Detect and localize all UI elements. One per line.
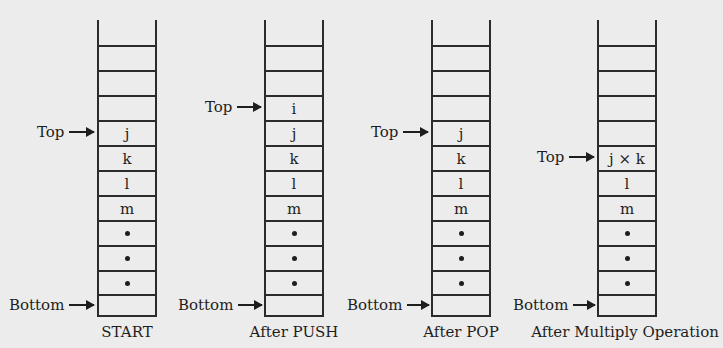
cell-value: l xyxy=(292,175,297,193)
cell-value: l xyxy=(625,175,630,193)
stack-cell-bottom xyxy=(264,294,324,317)
cell-value: m xyxy=(620,200,634,218)
bottom-pointer: Bottom xyxy=(513,295,595,315)
stack-cell xyxy=(97,245,157,270)
ellipsis-dot-icon xyxy=(292,256,297,261)
ellipsis-dot-icon xyxy=(125,256,130,261)
top-pointer: Top xyxy=(205,97,261,117)
stack-cell xyxy=(97,70,157,95)
arrow-right-icon xyxy=(407,304,429,306)
stack-cell xyxy=(597,95,657,120)
stack-cell-bottom xyxy=(597,294,657,317)
stack-after-push: i j k l m xyxy=(264,20,324,317)
ellipsis-dot-icon xyxy=(459,281,464,286)
stack-cell xyxy=(431,270,491,295)
cell-value: m xyxy=(120,200,134,218)
caption-start: START xyxy=(101,323,152,341)
stack-cell: k xyxy=(264,145,324,170)
stack-cell: m xyxy=(97,195,157,220)
top-pointer: Top xyxy=(537,147,594,167)
ellipsis-dot-icon xyxy=(459,231,464,236)
bottom-pointer: Bottom xyxy=(178,295,262,315)
stack-cell xyxy=(597,45,657,70)
bottom-label: Bottom xyxy=(178,296,233,314)
stack-cell: m xyxy=(597,195,657,220)
arrow-right-icon xyxy=(69,304,94,306)
cell-value: m xyxy=(454,200,468,218)
stack-cell xyxy=(597,120,657,145)
stack-cell xyxy=(431,70,491,95)
stack-cell: l xyxy=(431,170,491,195)
cell-value: j xyxy=(292,125,297,143)
stack-cell: l xyxy=(597,170,657,195)
stack-cell xyxy=(431,95,491,120)
cell-value: l xyxy=(125,175,130,193)
caption-after-push: After PUSH xyxy=(250,323,339,341)
arrow-right-icon xyxy=(403,131,428,133)
top-label: Top xyxy=(371,123,398,141)
stack-cell xyxy=(97,45,157,70)
stack-cell: k xyxy=(97,145,157,170)
cell-value: j xyxy=(125,125,130,143)
stack-start: j k l m xyxy=(97,20,157,317)
stack-cell xyxy=(264,70,324,95)
stack-cell xyxy=(597,220,657,245)
ellipsis-dot-icon xyxy=(625,231,630,236)
stack-cell: k xyxy=(431,145,491,170)
stack-after-pop: j k l m xyxy=(431,20,491,317)
arrow-right-icon xyxy=(569,156,594,158)
stack-cell: m xyxy=(264,195,324,220)
bottom-label: Bottom xyxy=(513,296,568,314)
stack-cell: i xyxy=(264,95,324,120)
ellipsis-dot-icon xyxy=(459,256,464,261)
ellipsis-dot-icon xyxy=(125,231,130,236)
stack-cell xyxy=(597,70,657,95)
stack-cell-bottom xyxy=(97,294,157,317)
ellipsis-dot-icon xyxy=(125,281,130,286)
arrow-right-icon xyxy=(573,304,595,306)
ellipsis-dot-icon xyxy=(625,281,630,286)
caption-after-multiply: After Multiply Operation xyxy=(531,323,719,341)
stack-cell xyxy=(431,45,491,70)
stack-cell: l xyxy=(97,170,157,195)
stack-cell: j xyxy=(264,120,324,145)
bottom-pointer: Bottom xyxy=(9,295,94,315)
caption-after-pop: After POP xyxy=(423,323,498,341)
cell-value: l xyxy=(459,175,464,193)
bottom-label: Bottom xyxy=(347,296,402,314)
cell-value: i xyxy=(292,100,297,118)
stack-cell: l xyxy=(264,170,324,195)
top-pointer: Top xyxy=(37,122,94,142)
ellipsis-dot-icon xyxy=(625,256,630,261)
top-label: Top xyxy=(205,98,232,116)
cell-value: k xyxy=(456,150,465,168)
top-pointer: Top xyxy=(371,122,428,142)
stack-after-multiply: j × k l m xyxy=(597,20,657,317)
top-label: Top xyxy=(37,123,64,141)
bottom-label: Bottom xyxy=(9,296,64,314)
stack-cell xyxy=(97,220,157,245)
stack-cell xyxy=(264,45,324,70)
cell-value: k xyxy=(289,150,298,168)
ellipsis-dot-icon xyxy=(292,281,297,286)
top-label: Top xyxy=(537,148,564,166)
cell-value: k xyxy=(122,150,131,168)
arrow-right-icon xyxy=(238,304,262,306)
stack-cell xyxy=(431,245,491,270)
stack-cell-bottom xyxy=(431,294,491,317)
stack-cell: j × k xyxy=(597,145,657,170)
stack-cell xyxy=(264,270,324,295)
stack-cell xyxy=(597,245,657,270)
stack-cell xyxy=(431,220,491,245)
arrow-right-icon xyxy=(69,131,94,133)
stack-cell: j xyxy=(97,120,157,145)
stack-cell: m xyxy=(431,195,491,220)
stack-cell xyxy=(264,220,324,245)
cell-value: j xyxy=(459,125,464,143)
stack-cell xyxy=(264,245,324,270)
arrow-right-icon xyxy=(237,106,261,108)
ellipsis-dot-icon xyxy=(292,231,297,236)
bottom-pointer: Bottom xyxy=(347,295,429,315)
stack-cell xyxy=(97,270,157,295)
cell-value: m xyxy=(287,200,301,218)
